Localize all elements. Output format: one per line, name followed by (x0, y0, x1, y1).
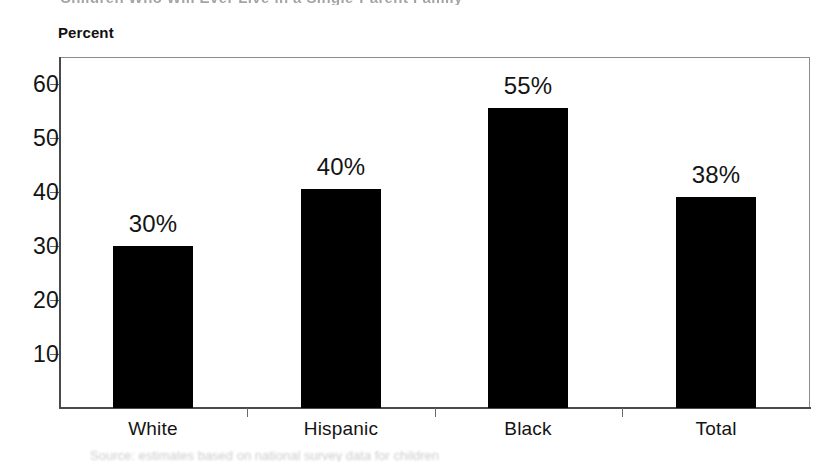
x-axis-tick (622, 408, 623, 417)
bar-value-label-total: 38% (692, 161, 741, 189)
y-axis-title: Percent (58, 24, 114, 41)
x-axis-tick (435, 408, 436, 417)
y-axis-line (59, 57, 61, 409)
x-axis-category-label-total: Total (695, 418, 736, 440)
y-axis-tick-label: 60 (15, 71, 59, 98)
x-axis-category-label-hispanic: Hispanic (304, 418, 378, 440)
bar-value-label-white: 30% (129, 210, 178, 238)
y-axis-tick-label: 40 (15, 179, 59, 206)
y-axis: 102030405060 (0, 0, 59, 460)
x-axis-category-label-white: White (128, 418, 178, 440)
y-axis-tick-label: 30 (15, 233, 59, 260)
scan-artifact-bottom-text: Source: estimates based on national surv… (90, 448, 750, 462)
y-axis-tick-label: 50 (15, 125, 59, 152)
x-axis-category-label-black: Black (504, 418, 551, 440)
bar-total[interactable] (676, 197, 756, 408)
x-axis-tick (247, 408, 248, 417)
bar-value-label-hispanic: 40% (317, 153, 366, 181)
bar-hispanic[interactable] (301, 189, 381, 408)
bar-value-label-black: 55% (504, 72, 553, 100)
bar-white[interactable] (113, 246, 193, 408)
bar-black[interactable] (488, 108, 568, 408)
y-axis-tick-label: 20 (15, 287, 59, 314)
scan-artifact-top-text: Children Who Will Ever Live in a Single-… (60, 0, 760, 5)
y-axis-tick-label: 10 (15, 341, 59, 368)
